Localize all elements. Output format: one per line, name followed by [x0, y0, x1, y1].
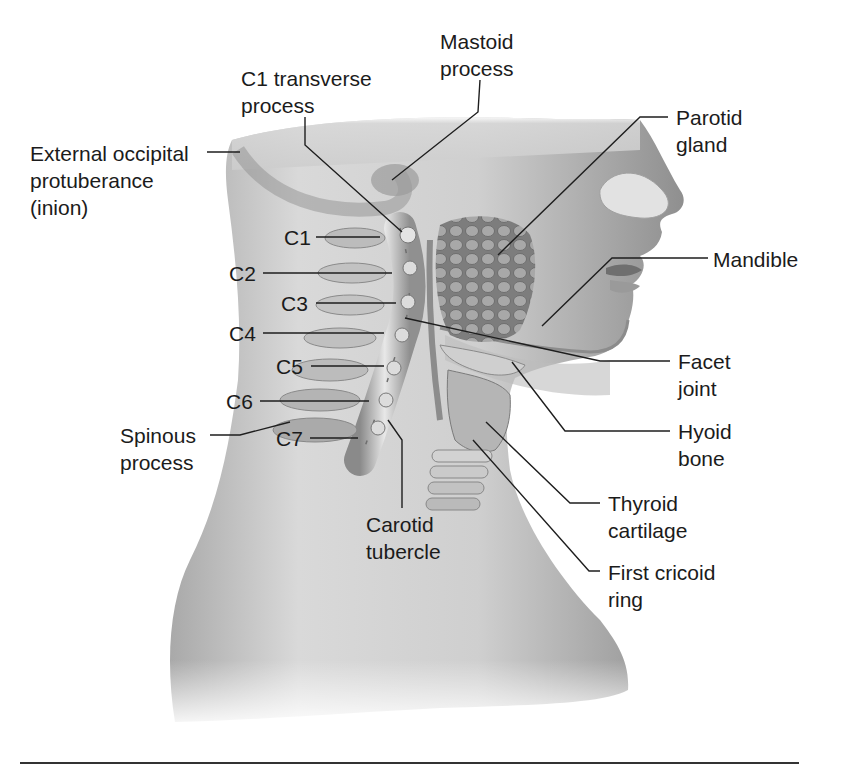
label-spinous-process: Spinous process	[120, 422, 196, 476]
label-carotid-tubercle: Carotid tubercle	[366, 511, 441, 565]
label-c4: C4	[229, 320, 256, 347]
label-c3: C3	[281, 290, 308, 317]
label-hyoid-bone: Hyoid bone	[678, 418, 732, 472]
label-facet-joint: Facet joint	[678, 348, 731, 402]
label-first-cricoid-ring: First cricoid ring	[608, 559, 715, 613]
label-thyroid-cartilage: Thyroid cartilage	[608, 490, 687, 544]
neck-anatomy-diagram: Mastoid process C1 transverse process Pa…	[0, 0, 844, 772]
label-c7: C7	[276, 425, 303, 452]
label-c6: C6	[226, 388, 253, 415]
label-c1: C1	[284, 224, 311, 251]
label-mastoid-process: Mastoid process	[440, 28, 514, 82]
label-c5: C5	[276, 353, 303, 380]
label-mandible: Mandible	[713, 246, 798, 273]
label-parotid-gland: Parotid gland	[676, 104, 743, 158]
label-external-occipital-protuberance: External occipital protuberance (inion)	[30, 140, 189, 221]
label-c1-transverse-process: C1 transverse process	[241, 65, 372, 119]
parotid-gland-shape	[436, 216, 536, 342]
label-c2: C2	[229, 260, 256, 287]
bottom-divider	[20, 762, 799, 764]
